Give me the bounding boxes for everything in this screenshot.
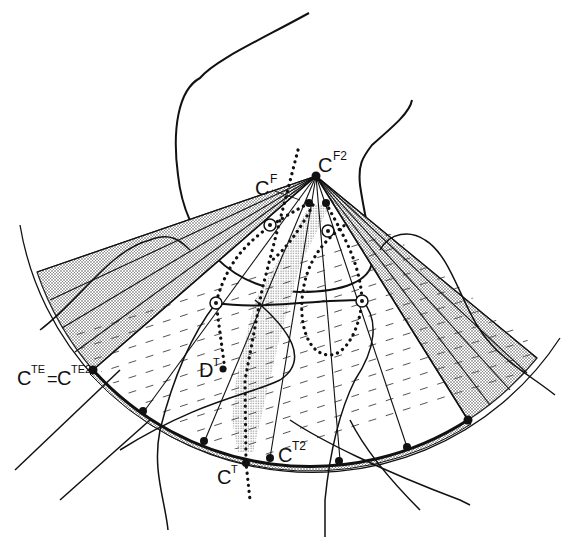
svg-text:F2: F2 [333, 149, 347, 163]
svg-text:C: C [17, 367, 31, 389]
ringed-point-upper-left [264, 219, 276, 231]
label-dt: D T [199, 356, 220, 381]
svg-text:C: C [57, 367, 71, 389]
label-ct: C T [217, 463, 238, 488]
svg-text:D: D [199, 359, 213, 381]
svg-text:TE: TE [31, 363, 45, 375]
point-tibial-4 [403, 443, 411, 451]
label-cf2: C F2 [318, 149, 347, 176]
knee-joint-diagram: C F C F2 C TE = C TE2 D T C T C T2 [0, 0, 575, 537]
svg-text:C: C [255, 177, 269, 199]
label-ct2: C T2 [278, 439, 306, 466]
point-ct [242, 459, 250, 467]
svg-text:T: T [231, 463, 238, 475]
point-dt [220, 366, 227, 373]
point-femoral-1 [305, 199, 313, 207]
svg-text:F: F [270, 172, 277, 186]
diagram-canvas: C F C F2 C TE = C TE2 D T C T C T2 [0, 0, 575, 537]
svg-text:T2: T2 [292, 439, 306, 453]
label-cte-equals-cte2: C TE = C TE2 [17, 363, 91, 389]
svg-text:TE2: TE2 [71, 363, 91, 375]
ringed-point-lower-left [210, 297, 222, 309]
ringed-point-upper-right [322, 225, 334, 237]
point-tibial-2 [200, 437, 208, 445]
svg-text:C: C [278, 444, 292, 466]
svg-text:C: C [318, 154, 332, 176]
ringed-point-lower-right [356, 295, 368, 307]
point-femoral-2 [322, 199, 330, 207]
point-tibial-3 [335, 457, 343, 465]
point-tibial-5 [464, 416, 473, 425]
svg-text:=: = [47, 369, 58, 389]
point-tibial-1 [139, 407, 147, 415]
svg-text:T: T [213, 356, 220, 368]
central-stippled-band [232, 205, 330, 452]
svg-text:C: C [217, 466, 231, 488]
point-ct2 [266, 454, 274, 462]
